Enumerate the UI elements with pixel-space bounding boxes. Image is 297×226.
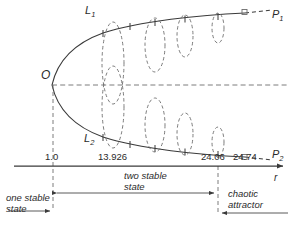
- tick-label-24-06: 24.06: [201, 152, 225, 163]
- region-label-two-stable-state: two stable state: [124, 171, 167, 192]
- tick-label-1-0: 1.0: [45, 152, 58, 163]
- curve-label-l1-sub: 1: [91, 10, 95, 19]
- tick-label-13-926: 13.926: [98, 152, 127, 163]
- curve-label-l2: L2: [84, 132, 94, 148]
- upper-branch-solid: [52, 13, 245, 85]
- limit-cycle-ellipse: [102, 22, 124, 104]
- region-label-chaotic-attractor: chaotic attractor: [228, 189, 263, 210]
- curve-label-p1: P1: [272, 8, 284, 24]
- limit-cycle-ellipses-lower: [102, 66, 224, 157]
- curve-label-l1: L1: [85, 4, 95, 20]
- limit-cycle-ellipse: [102, 66, 124, 148]
- curve-label-p2-sub: 2: [279, 154, 283, 163]
- region-two-stable-state-line2: state: [124, 182, 167, 193]
- curve-label-p1-sub: 1: [279, 14, 283, 23]
- region-chaotic-attractor-line2: attractor: [228, 200, 263, 211]
- r-axis-label: r: [274, 172, 277, 183]
- upper-branch-square-marker: [242, 10, 247, 15]
- lower-branch-solid: [52, 85, 245, 157]
- bifurcation-diagram: O L1 L2 P1 P2 1.0 13.926 24.06 24.74 r t…: [0, 0, 297, 226]
- limit-cycle-ellipse: [145, 18, 165, 72]
- tick-label-24-74: 24.74: [233, 152, 257, 163]
- region-label-one-stable-state: one stable state: [6, 193, 50, 214]
- upper-branch-dashed: [245, 10, 272, 13]
- curve-label-p2: P2: [272, 148, 284, 164]
- limit-cycle-ellipse: [145, 98, 165, 152]
- region-one-stable-state-line2: state: [6, 204, 50, 215]
- limit-cycle-ellipses-upper: [102, 13, 224, 104]
- curve-label-l2-sub: 2: [90, 138, 94, 147]
- origin-label: O: [41, 69, 50, 82]
